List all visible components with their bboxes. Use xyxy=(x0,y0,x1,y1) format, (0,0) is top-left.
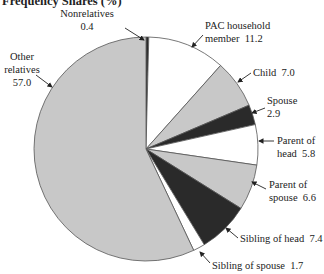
leader-arrow-icon xyxy=(252,182,266,189)
slice-label-sibling-of-head: Sibling of head 7.4 xyxy=(240,233,323,244)
slice-label-nonrelatives: Nonrelatives0.4 xyxy=(60,8,114,32)
leader-arrow-icon xyxy=(238,73,251,82)
slice-label-parent-of-spouse: Parent ofspouse 6.6 xyxy=(269,179,316,203)
leader-arrow-icon xyxy=(252,108,265,113)
slice-label-pac-household-member: PAC householdmember 11.2 xyxy=(205,20,271,44)
leader-arrow-icon xyxy=(36,75,52,87)
leader-arrow-icon xyxy=(200,252,210,263)
slice-label-child: Child 7.0 xyxy=(253,67,295,78)
pie-slices xyxy=(34,37,258,261)
slice-label-spouse: Spouse2.9 xyxy=(267,95,298,119)
slice-label-other-relatives: Otherrelatives57.0 xyxy=(4,51,40,88)
leader-arrow-icon xyxy=(226,228,238,238)
slice-label-sibling-of-spouse: Sibling of spouse 1.7 xyxy=(212,260,303,271)
pie-chart: Frequency Shares (%) Nonrelatives0.4PAC … xyxy=(0,0,324,274)
slice-label-parent-of-head: Parent ofhead 5.8 xyxy=(277,135,316,159)
chart-title: Frequency Shares (%) xyxy=(2,0,122,8)
leader-arrow-icon xyxy=(192,35,203,47)
